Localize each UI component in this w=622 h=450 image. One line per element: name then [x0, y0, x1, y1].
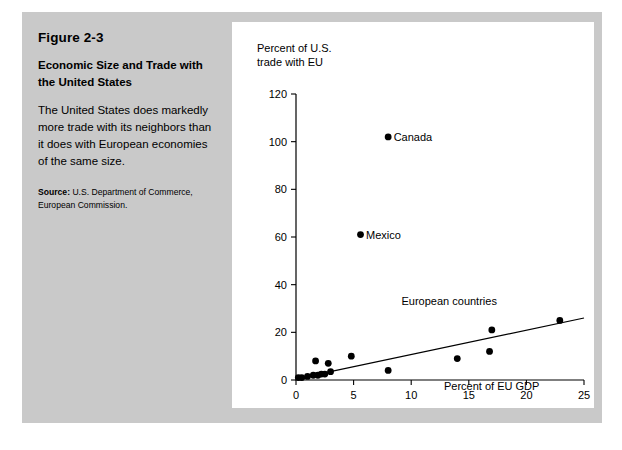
trend-line [296, 318, 584, 379]
plot-svg: 020406080100120 0510152025 CanadaMexico … [232, 22, 594, 408]
data-point [488, 327, 495, 334]
figure-description: The United States does markedly more tra… [38, 102, 216, 170]
y-tick-label: 40 [275, 279, 287, 291]
source-label: Source: [38, 187, 70, 197]
data-point [357, 231, 364, 238]
y-tick-label: 60 [275, 231, 287, 243]
data-point [486, 348, 493, 355]
x-tick-label: 10 [405, 389, 417, 401]
axis-lines [296, 94, 584, 380]
caption-panel: Figure 2-3 Economic Size and Trade with … [22, 12, 232, 423]
y-tick-label: 80 [275, 183, 287, 195]
chart-annotation: European countries [402, 295, 498, 307]
data-point [312, 358, 319, 365]
chart-panel: Percent of U.S. trade with EU 0204060801… [232, 22, 594, 408]
figure-container: Figure 2-3 Economic Size and Trade with … [22, 12, 602, 423]
data-point-label: Mexico [366, 229, 401, 241]
annotations: European countries [402, 295, 498, 307]
x-axis-title: Percent of EU GDP [444, 380, 539, 392]
y-tick-label: 20 [275, 326, 287, 338]
data-point [327, 368, 334, 375]
y-tick-label: 100 [269, 136, 287, 148]
figure-title: Economic Size and Trade with the United … [38, 57, 216, 90]
y-tick-label: 120 [269, 88, 287, 100]
data-point [556, 317, 563, 324]
scatter-chart: Percent of U.S. trade with EU 0204060801… [232, 22, 594, 408]
data-points: CanadaMexico [295, 131, 563, 381]
data-point [385, 367, 392, 374]
x-tick-label: 5 [351, 389, 357, 401]
data-point [298, 374, 305, 381]
data-point [348, 353, 355, 360]
x-axis-ticks: 0510152025 [293, 380, 590, 401]
y-tick-label: 0 [281, 374, 287, 386]
data-point-label: Canada [394, 131, 433, 143]
figure-number: Figure 2-3 [38, 30, 216, 46]
x-tick-label: 0 [293, 389, 299, 401]
data-point [304, 373, 311, 380]
data-point [454, 355, 461, 362]
data-point [385, 134, 392, 141]
figure-source: Source: U.S. Department of Commerce, Eur… [38, 186, 216, 211]
data-point [325, 360, 332, 367]
y-axis-ticks: 020406080100120 [269, 88, 296, 386]
x-tick-label: 25 [578, 389, 590, 401]
